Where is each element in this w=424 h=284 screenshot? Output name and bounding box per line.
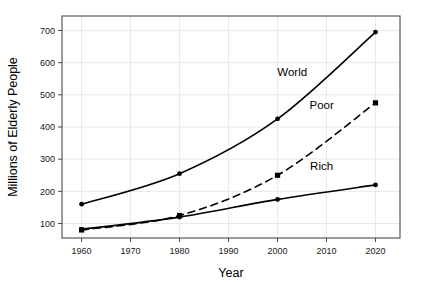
elderly-population-line-chart: 1960197019801990200020102020 10020030040… <box>0 0 424 284</box>
data-point-marker-poor <box>275 173 280 178</box>
x-tick-label: 2010 <box>317 246 337 256</box>
y-tick-label: 600 <box>40 58 55 68</box>
series-label-world: World <box>277 66 307 78</box>
y-tick-label: 300 <box>40 154 55 164</box>
y-tick-label: 700 <box>40 26 55 36</box>
data-point-marker-rich <box>79 227 84 232</box>
y-tick-label: 400 <box>40 122 55 132</box>
data-point-marker-world <box>275 117 280 122</box>
x-tick-label: 1980 <box>170 246 190 256</box>
y-axis-title: Millions of Elderly People <box>6 57 20 197</box>
data-point-marker-world <box>373 30 378 35</box>
series-label-poor: Poor <box>309 99 333 111</box>
x-axis-title: Year <box>218 266 243 280</box>
data-point-marker-rich <box>373 183 378 188</box>
x-tick-label: 2000 <box>268 246 288 256</box>
data-point-marker-rich <box>177 215 182 220</box>
y-tick-label: 500 <box>40 90 55 100</box>
chart-page: 1960197019801990200020102020 10020030040… <box>0 0 424 284</box>
x-tick-label: 1970 <box>121 246 141 256</box>
y-tick-label: 100 <box>40 219 55 229</box>
series-label-rich: Rich <box>310 160 333 172</box>
chart-background <box>0 0 424 284</box>
data-point-marker-world <box>79 202 84 207</box>
data-point-marker-poor <box>373 100 378 105</box>
x-tick-label: 2020 <box>365 246 385 256</box>
x-tick-label: 1990 <box>219 246 239 256</box>
data-point-marker-rich <box>275 197 280 202</box>
data-point-marker-world <box>177 171 182 176</box>
x-tick-label: 1960 <box>72 246 92 256</box>
y-tick-label: 200 <box>40 187 55 197</box>
